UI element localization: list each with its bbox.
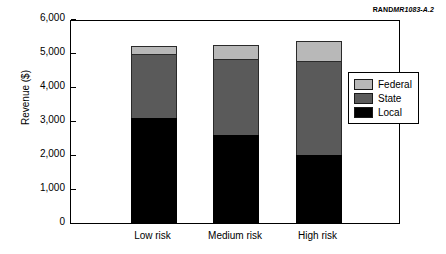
legend-item-state: State — [354, 91, 412, 105]
tick-mark — [71, 155, 76, 156]
bar-medium-risk — [213, 45, 259, 223]
bar-segment-state — [296, 62, 342, 156]
bar-segment-federal — [213, 45, 259, 60]
tick-mark — [71, 53, 76, 54]
y-axis-tick-label: 3,000 — [40, 114, 65, 125]
bar-segment-local — [131, 118, 177, 223]
bar-segment-local — [213, 135, 259, 223]
tick-mark — [71, 189, 76, 190]
chart-legend: FederalStateLocal — [348, 72, 419, 124]
document-id-text: MR1083-A.2 — [393, 6, 434, 13]
y-axis-title: Revenue ($) — [20, 28, 31, 168]
chart-figure: RANDMR1083-A.2 Revenue ($) 01,0002,0003,… — [0, 0, 446, 254]
legend-swatch-federal — [354, 79, 373, 90]
bar-segment-federal — [296, 41, 342, 61]
y-axis-tick-label: 4,000 — [40, 80, 65, 91]
legend-label: State — [378, 93, 401, 104]
bar-segment-local — [296, 155, 342, 223]
bar-high-risk — [296, 41, 342, 223]
rand-logo-text: RAND — [373, 6, 394, 13]
y-axis-tick-label: 0 — [59, 216, 65, 227]
tick-mark — [71, 121, 76, 122]
rand-credit-line: RANDMR1083-A.2 — [373, 5, 434, 14]
bar-segment-federal — [131, 46, 177, 55]
bar-low-risk — [131, 46, 177, 223]
y-axis-tick-label: 1,000 — [40, 182, 65, 193]
y-axis-tick-label: 5,000 — [40, 46, 65, 57]
y-axis-tick-label: 6,000 — [40, 12, 65, 23]
bar-segment-state — [213, 60, 259, 135]
tick-mark — [71, 19, 76, 20]
y-axis-tick-label: 2,000 — [40, 148, 65, 159]
legend-item-federal: Federal — [354, 77, 412, 91]
legend-label: Local — [378, 107, 402, 118]
legend-label: Federal — [378, 79, 412, 90]
x-axis-label: High risk — [263, 230, 373, 241]
bar-segment-state — [131, 55, 177, 118]
tick-mark — [71, 223, 76, 224]
legend-swatch-state — [354, 93, 373, 104]
legend-item-local: Local — [354, 105, 412, 119]
legend-swatch-local — [354, 107, 373, 118]
tick-mark — [71, 87, 76, 88]
